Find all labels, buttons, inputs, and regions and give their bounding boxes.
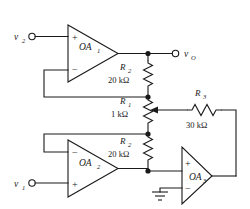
input-terminal-v2-subscript: 2 — [22, 37, 26, 44]
resistor-r1-potentiometer[interactable]: R 1 1 kΩ — [111, 96, 187, 134]
resistor-r2-top: R 2 20 kΩ — [108, 60, 153, 97]
wire-oa1-feedback — [44, 70, 148, 97]
input-terminal-v2-label: v — [14, 32, 19, 42]
op-amp-oa1-plus-sign: + — [72, 32, 78, 43]
op-amp-oa3-minus-sign: − — [185, 183, 191, 194]
resistor-r1-subscript: 1 — [128, 101, 131, 108]
op-amp-oa1-label: OA — [79, 42, 92, 52]
output-terminal-vo-subscript: O — [191, 54, 196, 61]
resistor-r2-bottom-label: R — [119, 136, 126, 146]
resistor-r2-top-value: 20 kΩ — [108, 75, 129, 85]
wire-oa3-minus-to-ground — [160, 188, 182, 192]
resistor-r2-bottom-subscript: 2 — [128, 141, 132, 148]
op-amp-oa3-label: OA — [189, 172, 202, 182]
wire-r3-to-oa3-output — [222, 110, 236, 176]
resistor-r2-top-label: R — [119, 62, 126, 72]
op-amp-oa1: OA 1 + − — [68, 25, 118, 82]
wire-oa2-output — [118, 169, 148, 172]
input-terminal-v1[interactable]: v 1 — [14, 179, 35, 191]
resistor-r3: R 3 30 kΩ — [186, 88, 222, 130]
resistor-r1-label: R — [119, 96, 126, 106]
resistor-r2-top-subscript: 2 — [128, 67, 132, 74]
input-terminal-v1-label: v — [14, 179, 19, 189]
op-amp-oa3: OA 3 + − — [182, 147, 212, 204]
resistor-r2-bottom-value: 20 kΩ — [108, 149, 129, 159]
resistor-r3-subscript: 3 — [202, 93, 207, 100]
resistor-r3-label: R — [194, 88, 201, 98]
output-terminal-vo[interactable]: v O — [172, 49, 196, 61]
ground-symbol — [152, 192, 168, 200]
op-amp-oa2-minus-sign: − — [72, 147, 78, 158]
circuit-diagram: OA 1 + − v 2 v O R 2 20 kΩ R 1 1 kΩ — [0, 0, 250, 209]
resistor-r1-value: 1 kΩ — [111, 109, 128, 119]
op-amp-oa3-plus-sign: + — [185, 158, 191, 169]
input-terminal-v1-subscript: 1 — [22, 184, 25, 191]
op-amp-oa1-subscript: 1 — [97, 47, 100, 54]
input-terminal-v2[interactable]: v 2 — [14, 32, 35, 44]
output-terminal-vo-label: v — [184, 49, 189, 59]
resistor-r3-value: 30 kΩ — [186, 120, 207, 130]
op-amp-oa1-minus-sign: − — [72, 64, 78, 75]
op-amp-oa2-label: OA — [79, 158, 92, 168]
op-amp-oa2-plus-sign: + — [72, 179, 78, 190]
wire-oa2-feedback — [44, 134, 148, 152]
resistor-r2-bottom: R 2 20 kΩ — [108, 134, 153, 171]
